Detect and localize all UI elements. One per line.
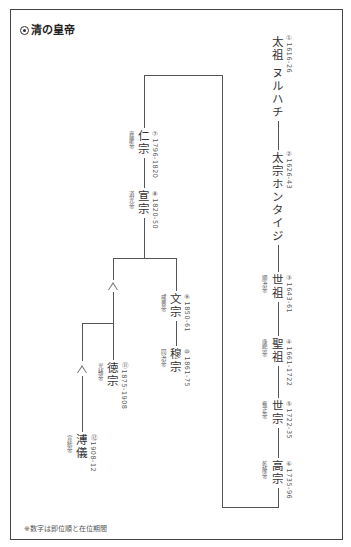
reign-years: ③1643-61: [285, 274, 292, 313]
reign-years: ⑧1820-50: [151, 190, 158, 229]
line-top-connector: [144, 75, 223, 76]
emperor-name: 世祖: [271, 272, 283, 302]
reign-years: ⑫1908-12: [89, 434, 96, 472]
reign-years: ⑤1722-35: [285, 400, 292, 439]
reign-years: ①1616-26: [285, 34, 292, 73]
line-bottom: [222, 507, 279, 508]
emperor-name: 高宗: [271, 458, 283, 488]
era-name: 順治帝: [262, 275, 268, 293]
emperor-name: 穆宗: [169, 346, 181, 376]
reign-years: ⑥1735-96: [285, 460, 292, 499]
line-connector: [222, 75, 223, 508]
triangle-icon: [108, 282, 118, 290]
emperor-name: 仁宗: [137, 128, 149, 158]
reign-years: ⑦1796-1820: [151, 130, 158, 178]
emperor-name: 溥儀: [75, 432, 87, 462]
emperor-name: 太宗ホンタイジ: [271, 150, 283, 245]
era-name: 同治帝: [161, 349, 167, 367]
line-branch-2b: [82, 376, 83, 436]
line-left-column: [144, 75, 145, 259]
reign-years: ⑩1861-75: [183, 348, 190, 387]
era-name: 乾隆帝: [262, 461, 268, 479]
reign-years: ②1626-43: [285, 150, 292, 189]
era-name: 光緒帝: [98, 363, 104, 381]
emperor-name: 聖祖: [271, 336, 283, 366]
reign-years: ④1661-1722: [285, 338, 292, 386]
line-branch-left-b: [113, 292, 114, 362]
reign-years: ⑨1850-61: [183, 293, 190, 332]
era-name: 咸豊帝: [161, 294, 167, 312]
era-name: 康熙帝: [262, 339, 268, 357]
emperor-name: 世宗: [271, 398, 283, 428]
line-branch-1: [113, 258, 177, 259]
footnote: ※数字は即位順と在位期間: [24, 523, 107, 533]
line-branch-2: [82, 323, 114, 324]
line-branch-2a: [82, 323, 83, 361]
triangle-icon: [77, 365, 87, 373]
era-name: 嘉慶帝: [129, 131, 135, 149]
bullet-icon: [20, 26, 29, 35]
line-branch-left-a: [113, 258, 114, 280]
diagram-title: 清の皇帝: [20, 21, 75, 37]
emperor-name: 太祖 ヌルハチ: [271, 34, 283, 121]
emperor-name: 宣宗: [137, 188, 149, 218]
title-text: 清の皇帝: [31, 24, 75, 37]
era-name: 道光帝: [129, 191, 135, 209]
era-name: 宣統帝: [67, 435, 73, 453]
era-name: 雍正帝: [262, 401, 268, 419]
emperor-name: 文宗: [169, 291, 181, 321]
emperor-name: 徳宗: [106, 360, 118, 390]
reign-years: ⑪1875-1908: [120, 362, 127, 409]
